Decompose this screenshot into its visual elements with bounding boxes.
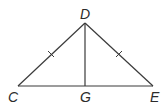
label-d: D bbox=[80, 7, 90, 21]
label-e: E bbox=[150, 90, 159, 104]
label-g: G bbox=[80, 90, 91, 104]
tick-mark-dc bbox=[48, 51, 54, 57]
label-c: C bbox=[8, 90, 18, 104]
